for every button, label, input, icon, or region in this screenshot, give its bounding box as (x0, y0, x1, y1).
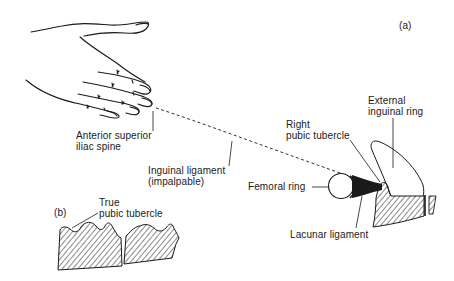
label-lacunar-ligament: Lacunar ligament (290, 230, 368, 241)
lacunar-ligament-leader-line (356, 196, 362, 228)
pubic-bone-hatched (373, 182, 424, 227)
panel-b-left-bone (58, 222, 122, 270)
label-anterior-superior-iliac-spine: Anterior superior iliac spine (76, 131, 152, 152)
panel-label-b: (b) (54, 208, 67, 219)
panel-b-right-bone (124, 224, 179, 264)
label-femoral-ring: Femoral ring (248, 182, 305, 193)
inguinal-ligament-leader-line (229, 141, 232, 166)
right-tubercle-leader-line (350, 140, 380, 182)
label-true-pubic-tubercle: True pubic tubercle (99, 198, 163, 219)
diagram-artwork (0, 0, 454, 281)
panel-label-a: (a) (399, 21, 412, 32)
label-external-inguinal-ring: External inguinal ring (368, 96, 423, 117)
label-inguinal-ligament: Inguinal ligament (impalpable) (148, 166, 225, 187)
pubic-bone-fragment (429, 196, 436, 214)
anatomy-figure: (a) Anterior superior iliac spine Inguin… (0, 0, 454, 281)
femoral-ring-circle (329, 174, 354, 199)
label-right-pubic-tubercle: Right pubic tubercle (286, 120, 350, 141)
hand-illustration (26, 22, 152, 118)
